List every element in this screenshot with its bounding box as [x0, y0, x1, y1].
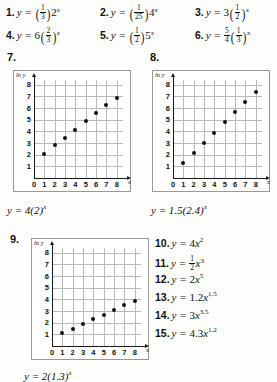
grid-line-vertical	[117, 80, 118, 178]
y-axis-tick-label: 8	[161, 81, 170, 89]
grid-line-vertical	[235, 80, 236, 178]
exercise-14-equation: y = 3x3.5	[172, 310, 209, 321]
y-axis-tick-label: 2	[161, 151, 170, 159]
data-point	[81, 322, 85, 326]
y-axis-tick-label: 3	[40, 308, 49, 316]
exercise-1-coef-numerator: 1	[40, 4, 46, 12]
grid-line-horizontal	[173, 85, 262, 86]
graph-9-plot-area	[52, 248, 141, 346]
exercise-5-coefficient: (12)	[129, 27, 146, 45]
x-axis-tick-label: 5	[81, 181, 90, 189]
exercise-1-exponent: x	[57, 6, 60, 14]
grid-line-horizontal	[173, 108, 262, 109]
exercise-4-base-numerator: 2	[46, 27, 52, 35]
grid-line-horizontal	[173, 96, 262, 97]
grid-line-horizontal	[52, 276, 141, 277]
grid-line-horizontal	[52, 334, 141, 335]
y-axis-arrow-icon	[50, 241, 54, 245]
exercise-12-exponent: 5	[200, 272, 204, 280]
x-axis-label: x	[267, 179, 270, 186]
grid-line-horizontal	[173, 143, 262, 144]
x-axis-tick-label: 3	[61, 181, 70, 189]
exercise-2-number: 2.	[100, 6, 109, 18]
y-axis-tick-label: 1	[40, 331, 49, 339]
y-axis	[52, 245, 53, 346]
grid-line-horizontal	[52, 288, 141, 289]
x-axis-tick-label: 5	[220, 181, 229, 189]
data-point	[115, 96, 119, 100]
grid-line-vertical	[245, 80, 246, 178]
graph-7-caption-text: y = 4(2)	[7, 204, 43, 216]
exercise-11-equation: y = 12x3	[171, 255, 204, 271]
data-point	[192, 151, 196, 155]
data-point	[63, 136, 67, 140]
exercise-4-lhs: y =	[17, 29, 32, 41]
graph-9-caption-exponent: x	[68, 369, 71, 377]
exercise-11-coef-numerator: 1	[189, 255, 195, 263]
grid-line-horizontal	[173, 155, 262, 156]
exercise-2-equation: y = (125)4x	[111, 4, 158, 22]
exercise-5-number: 5.	[100, 29, 109, 41]
grid-line-vertical	[73, 248, 74, 346]
grid-line-horizontal	[52, 264, 141, 265]
exercise-13-number: 13.	[155, 291, 170, 303]
exercise-10-number: 10.	[155, 237, 170, 249]
exercise-13-coefficient: 1.2	[189, 291, 203, 303]
exercise-5-coef-denominator: 2	[134, 35, 140, 44]
x-axis	[52, 346, 145, 347]
grid-line-horizontal	[34, 108, 123, 109]
y-axis-tick-label: 7	[22, 93, 31, 101]
x-axis-tick-label: 7	[120, 349, 129, 357]
grid-line-vertical	[83, 248, 84, 346]
exercise-3-base: (12)	[229, 4, 246, 22]
grid-line-vertical	[44, 80, 45, 178]
exercise-11-lhs: y =	[171, 257, 186, 269]
exercise-3-lhs: y =	[206, 6, 221, 18]
exercise-6-coef-numerator: 5	[224, 27, 230, 35]
exercise-3-number: 3.	[195, 6, 204, 18]
y-axis	[34, 77, 35, 178]
y-axis-tick-label: 3	[161, 140, 170, 148]
x-axis-tick-label: 1	[179, 181, 188, 189]
exercise-11-coefficient: 12	[189, 255, 195, 271]
graph-7-caption: y = 4(2)x	[7, 205, 46, 216]
exercise-4-equation: y = 6(23)x	[17, 27, 60, 45]
exercise-6-number: 6.	[195, 29, 204, 41]
exercise-4-exponent: x	[57, 29, 60, 37]
x-axis-tick-label: 3	[79, 349, 88, 357]
x-axis-tick-label: 8	[130, 349, 139, 357]
grid-line-horizontal	[173, 166, 262, 167]
grid-line-horizontal	[34, 96, 123, 97]
graph-8-caption-text: y = 1.5(2.4)	[151, 204, 204, 216]
y-axis-tick-label: 1	[161, 163, 170, 171]
exercise-4: 4. y = 6(23)x	[6, 27, 100, 45]
x-axis	[34, 178, 127, 179]
graph-7-panel: 12345678012345678ln yx	[13, 70, 131, 192]
graph-8-panel: 12345678012345678ln yx	[152, 70, 270, 192]
grid-line-vertical	[204, 80, 205, 178]
graph-7-caption-exponent: x	[43, 203, 46, 211]
exercise-15-coefficient: 4.3	[189, 327, 203, 339]
x-axis-tick-label: 0	[169, 181, 178, 189]
x-axis-tick-label: 2	[50, 181, 59, 189]
exercise-5-equation: y = (12)5x	[111, 27, 154, 45]
graph-8-caption-exponent: x	[204, 203, 207, 211]
data-point	[42, 152, 46, 156]
exercise-11-exponent: 3	[200, 257, 204, 265]
grid-line-horizontal	[34, 120, 123, 121]
exercise-7-number: 7.	[7, 51, 16, 63]
exercise-1-equation: y = (13)2x	[17, 4, 60, 22]
exercise-11-number: 11.	[155, 257, 169, 269]
grid-line-vertical	[194, 80, 195, 178]
exercise-6-coefficient: 54	[224, 27, 230, 43]
y-axis-tick-label: 5	[22, 116, 31, 124]
grid-line-vertical	[93, 248, 94, 346]
graph-9-caption-text: y = 2(1.3)	[24, 370, 68, 382]
exercise-10: 10. y = 4x2	[155, 237, 217, 255]
exercise-12-number: 12.	[155, 273, 170, 285]
exercise-3-base-denominator: 2	[235, 12, 241, 21]
grid-line-horizontal	[52, 311, 141, 312]
graph-8-caption: y = 1.5(2.4)x	[151, 205, 207, 216]
x-axis-tick-label: 8	[112, 181, 121, 189]
exercise-6: 6. y = 54(13)x	[195, 27, 250, 45]
